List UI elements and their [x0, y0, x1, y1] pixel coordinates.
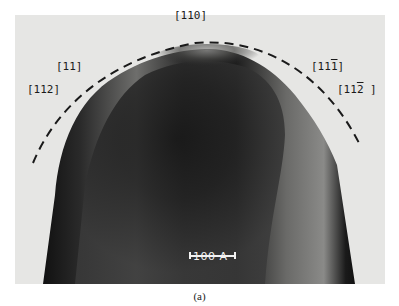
scale-bar-tick-right [234, 252, 236, 259]
label-110: [110] [174, 10, 207, 22]
specimen-image [15, 15, 385, 284]
figure-caption: (a) [0, 290, 399, 302]
scale-bar [189, 255, 236, 257]
label-11-2bar: [112 ] [337, 84, 377, 96]
label-11-1bar: [111] [311, 61, 344, 73]
micrograph [15, 15, 385, 284]
figure: [110] [11] [112] [111] [112 ] 100 A (a) [0, 0, 399, 306]
label-111: [11] [56, 61, 83, 73]
scale-bar-tick-left [189, 252, 191, 259]
label-112: [112] [27, 84, 60, 96]
